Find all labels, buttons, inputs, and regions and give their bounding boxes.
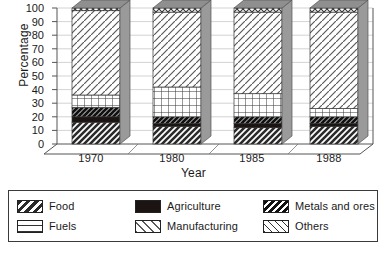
y-tick-40: 40 — [14, 85, 44, 96]
legend-label-metals-and-ores: Metals and ores — [295, 200, 375, 212]
segment-food — [310, 126, 358, 144]
legend-label-manufacturing: Manufacturing — [167, 220, 238, 232]
segment-fuels — [153, 87, 201, 117]
x-tick-1988: 1988 — [299, 152, 359, 164]
bar-top-face — [153, 0, 211, 8]
segment-others — [153, 8, 201, 12]
x-tick-1980: 1980 — [142, 152, 202, 164]
bar-side-face — [201, 0, 211, 144]
y-tick-100: 100 — [14, 3, 44, 14]
bar-top-face — [310, 0, 368, 8]
legend-label-fuels: Fuels — [49, 220, 76, 232]
bar-1970[interactable] — [72, 0, 130, 144]
legend-item-others[interactable]: Others — [263, 220, 375, 233]
y-tick-0: 0 — [14, 139, 44, 150]
segment-manufacturing — [72, 11, 120, 95]
legend-label-others: Others — [295, 220, 329, 232]
segment-fuels — [234, 94, 282, 117]
segment-others — [234, 8, 282, 12]
y-tick-60: 60 — [14, 57, 44, 68]
segment-manufacturing — [153, 12, 201, 87]
bar-top-face — [234, 0, 292, 8]
segment-agriculture — [310, 124, 358, 127]
segment-metals-and-ores — [153, 117, 201, 124]
metals-and-ores-swatch — [263, 200, 289, 213]
x-axis-title: Year — [0, 166, 387, 180]
agriculture-swatch — [135, 200, 161, 213]
others-swatch — [263, 220, 289, 233]
y-tick-20: 20 — [14, 112, 44, 123]
segment-food — [72, 122, 120, 144]
segment-food — [234, 128, 282, 144]
y-tick-50: 50 — [14, 71, 44, 82]
y-tick-90: 90 — [14, 17, 44, 28]
segment-metals-and-ores — [234, 117, 282, 124]
y-tick-80: 80 — [14, 30, 44, 41]
manufacturing-swatch — [135, 220, 161, 233]
segment-metals-and-ores — [310, 117, 358, 124]
bar-side-face — [120, 0, 130, 144]
segment-food — [153, 126, 201, 144]
y-tick-70: 70 — [14, 44, 44, 55]
segment-agriculture — [234, 124, 282, 128]
segment-fuels — [310, 109, 358, 117]
bar-1980[interactable] — [153, 0, 211, 144]
bar-1985[interactable] — [234, 0, 292, 144]
y-tick-30: 30 — [14, 98, 44, 109]
chart-svg — [0, 0, 387, 168]
legend-item-manufacturing[interactable]: Manufacturing — [135, 220, 263, 233]
legend-label-food: Food — [49, 200, 74, 212]
segment-others — [72, 8, 120, 11]
legend-label-agriculture: Agriculture — [167, 200, 221, 212]
chart-area: Percentage — [0, 0, 387, 185]
x-tick-1985: 1985 — [222, 152, 282, 164]
legend-item-fuels[interactable]: Fuels — [17, 220, 135, 233]
y-tick-10: 10 — [14, 125, 44, 136]
segment-agriculture — [72, 117, 120, 122]
segment-others — [310, 8, 358, 12]
segment-manufacturing — [234, 12, 282, 94]
legend-item-metals-and-ores[interactable]: Metals and ores — [263, 200, 375, 213]
legend-item-agriculture[interactable]: Agriculture — [135, 200, 263, 213]
y-axis-ticks — [52, 8, 57, 144]
bar-1988[interactable] — [310, 0, 368, 144]
segment-metals-and-ores — [72, 107, 120, 117]
bar-side-face — [358, 0, 368, 144]
segment-agriculture — [153, 124, 201, 127]
segment-manufacturing — [310, 12, 358, 109]
legend-item-food[interactable]: Food — [17, 200, 135, 213]
fuels-swatch — [17, 220, 43, 233]
bar-side-face — [282, 0, 292, 144]
bar-top-face — [72, 0, 130, 8]
x-tick-1970: 1970 — [61, 152, 121, 164]
food-swatch — [17, 200, 43, 213]
legend: Food Agriculture Metals and ores Fuels M… — [8, 190, 378, 242]
segment-fuels — [72, 95, 120, 107]
